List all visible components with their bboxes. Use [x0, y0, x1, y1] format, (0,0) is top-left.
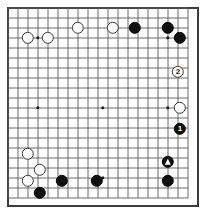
stone-white[interactable] [42, 32, 54, 44]
stone-white[interactable] [107, 22, 119, 34]
stone-white[interactable] [22, 175, 34, 187]
stone-layer: 21 [0, 0, 207, 215]
go-diagram-root: 21 [0, 0, 207, 215]
stone-black[interactable] [174, 32, 186, 44]
stone-black[interactable] [34, 187, 46, 199]
stone-white-move-2[interactable]: 2 [172, 66, 184, 78]
stone-white[interactable] [174, 102, 186, 114]
stone-black[interactable] [129, 22, 141, 34]
hoshi-right-upper-point [166, 36, 169, 39]
hoshi-right-center-point [166, 106, 169, 109]
stone-white[interactable] [22, 32, 34, 44]
stone-black[interactable] [91, 175, 103, 187]
hoshi-left-upper-point [36, 36, 39, 39]
stone-black-marked[interactable] [162, 156, 174, 168]
stone-number-label: 1 [178, 125, 182, 133]
stone-black-move-1[interactable]: 1 [174, 123, 186, 135]
stone-white[interactable] [22, 148, 34, 160]
stone-black[interactable] [162, 175, 174, 187]
hoshi-left-center-point [36, 106, 39, 109]
stone-black[interactable] [162, 22, 174, 34]
hoshi-center-point [101, 106, 104, 109]
stone-white[interactable] [72, 22, 84, 34]
stone-white[interactable] [34, 164, 46, 176]
stone-black[interactable] [56, 175, 68, 187]
triangle-mark-icon [165, 159, 171, 165]
stone-number-label: 2 [176, 68, 180, 76]
